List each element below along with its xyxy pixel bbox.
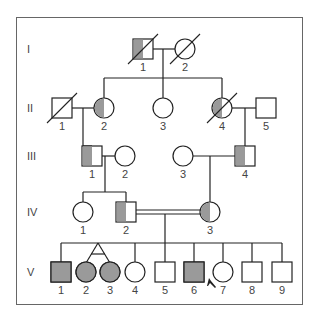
- generation-label-i: I: [27, 43, 30, 55]
- individual-number: 1: [140, 61, 146, 73]
- individual-number: 2: [122, 168, 128, 180]
- male-square-icon: [256, 98, 276, 118]
- male-square-icon: [272, 262, 292, 282]
- individual-number: 2: [83, 284, 89, 296]
- generation-label-iv: IV: [27, 206, 38, 218]
- individual-number: 8: [249, 284, 255, 296]
- individual-number: 1: [89, 168, 95, 180]
- generation-label-iii: III: [27, 150, 36, 162]
- pedigree-figure: I II III IV V: [0, 0, 316, 314]
- individual-number: 3: [107, 284, 113, 296]
- individual-number: 6: [191, 284, 197, 296]
- female-circle-icon: [73, 202, 93, 222]
- generation-label-ii: II: [27, 102, 33, 114]
- female-circle-icon: [213, 262, 233, 282]
- female-circle-icon: [153, 98, 173, 118]
- individual-number: 3: [207, 224, 213, 236]
- individual-number: 2: [182, 61, 188, 73]
- individual-number: 2: [123, 224, 129, 236]
- female-circle-icon: [125, 262, 145, 282]
- male-square-icon: [155, 262, 175, 282]
- individual-number: 3: [160, 120, 166, 132]
- individual-number: 3: [180, 168, 186, 180]
- individual-number: 4: [219, 120, 225, 132]
- female-circle-icon: [173, 146, 193, 166]
- individual-number: 2: [101, 120, 107, 132]
- individual-number: 1: [59, 120, 65, 132]
- individual-number: 4: [132, 284, 138, 296]
- individual-number: 1: [80, 224, 86, 236]
- individual-number: 1: [58, 284, 64, 296]
- individual-number: 4: [242, 168, 248, 180]
- pedigree-chart: I II III IV V: [0, 0, 316, 314]
- individual-number: 5: [263, 120, 269, 132]
- individual-number: 9: [279, 284, 285, 296]
- male-square-icon: [242, 262, 262, 282]
- individual-number: 5: [162, 284, 168, 296]
- generation-label-v: V: [27, 266, 35, 278]
- female-circle-icon: [115, 146, 135, 166]
- individual-number: 7: [220, 284, 226, 296]
